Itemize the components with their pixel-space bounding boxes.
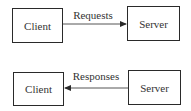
client-box-bottom: Client [13,72,64,106]
requests-label: Requests [73,10,113,21]
client-box-top: Client [12,8,63,43]
server-label-top: Server [139,18,168,30]
server-label-bottom: Server [140,82,169,94]
server-box-bottom: Server [128,70,181,105]
server-box-top: Server [127,6,180,41]
responses-label: Responses [73,71,119,82]
client-label-top: Client [24,20,51,32]
client-label-bottom: Client [25,83,52,95]
